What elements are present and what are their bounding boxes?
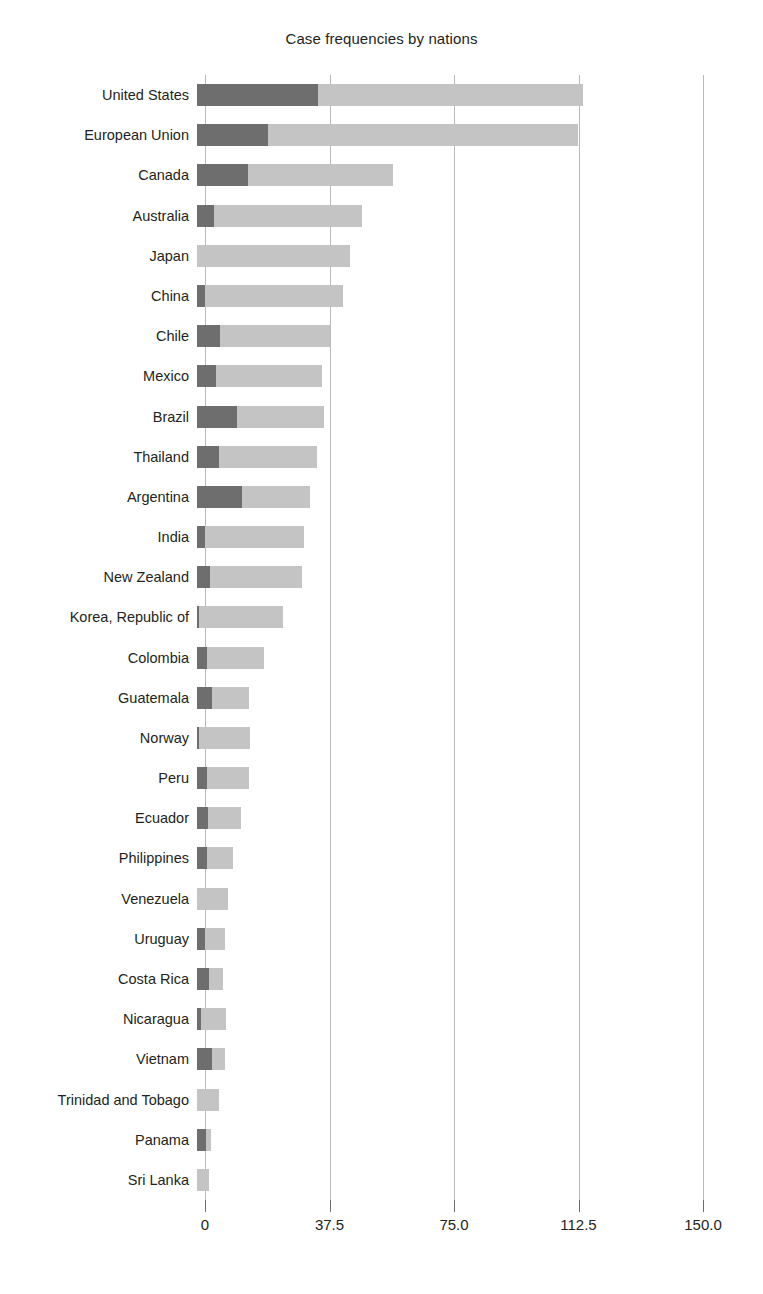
category-label: Trinidad and Tobago (0, 1092, 197, 1108)
stacked-bar[interactable] (197, 727, 250, 749)
chart-container: Case frequencies by nations United State… (0, 0, 763, 1294)
bar-row[interactable]: Mexico (0, 356, 763, 396)
bar-row[interactable]: Sri Lanka (0, 1160, 763, 1200)
bar-segment-series-1 (197, 1048, 212, 1070)
category-label: Brazil (0, 409, 197, 425)
stacked-bar[interactable] (197, 968, 223, 990)
bar-track (197, 597, 763, 637)
bar-row[interactable]: Japan (0, 236, 763, 276)
category-label: Argentina (0, 489, 197, 505)
stacked-bar[interactable] (197, 1169, 209, 1191)
bar-segment-series-1 (197, 446, 219, 468)
bar-row[interactable]: Peru (0, 758, 763, 798)
stacked-bar[interactable] (197, 888, 228, 910)
stacked-bar[interactable] (197, 767, 249, 789)
bar-segment-series-2 (242, 486, 310, 508)
bar-segment-series-2 (197, 888, 228, 910)
bar-segment-series-2 (268, 124, 578, 146)
stacked-bar[interactable] (197, 1008, 226, 1030)
bar-row[interactable]: Vietnam (0, 1039, 763, 1079)
stacked-bar[interactable] (197, 124, 578, 146)
bar-row[interactable]: Norway (0, 718, 763, 758)
category-label: Colombia (0, 650, 197, 666)
x-tick-mark (330, 1200, 331, 1212)
bar-row[interactable]: Nicaragua (0, 999, 763, 1039)
bar-track (197, 1079, 763, 1119)
bar-track (197, 236, 763, 276)
bar-row[interactable]: Trinidad and Tobago (0, 1079, 763, 1119)
stacked-bar[interactable] (197, 205, 362, 227)
bar-row[interactable]: Philippines (0, 838, 763, 878)
bar-row[interactable]: New Zealand (0, 557, 763, 597)
stacked-bar[interactable] (197, 164, 393, 186)
bar-row[interactable]: Chile (0, 316, 763, 356)
bar-row[interactable]: Ecuador (0, 798, 763, 838)
bar-segment-series-2 (214, 205, 362, 227)
category-label: European Union (0, 127, 197, 143)
bar-row[interactable]: Australia (0, 196, 763, 236)
stacked-bar[interactable] (197, 1089, 219, 1111)
bar-row[interactable]: Uruguay (0, 919, 763, 959)
bar-segment-series-1 (197, 486, 242, 508)
bar-row[interactable]: Argentina (0, 477, 763, 517)
stacked-bar[interactable] (197, 1048, 225, 1070)
bar-track (197, 517, 763, 557)
bar-row[interactable]: Brazil (0, 396, 763, 436)
bar-row[interactable]: United States (0, 75, 763, 115)
category-label: Ecuador (0, 810, 197, 826)
bar-segment-series-1 (197, 205, 214, 227)
bar-row[interactable]: Canada (0, 155, 763, 195)
bar-track (197, 758, 763, 798)
x-tick-label: 112.5 (560, 1216, 596, 1233)
stacked-bar[interactable] (197, 285, 343, 307)
bar-track (197, 396, 763, 436)
stacked-bar[interactable] (197, 365, 322, 387)
bar-segment-series-1 (197, 928, 205, 950)
category-label: Australia (0, 208, 197, 224)
stacked-bar[interactable] (197, 807, 241, 829)
x-axis: 037.575.0112.5150.0 (0, 1200, 763, 1260)
category-label: Philippines (0, 850, 197, 866)
stacked-bar[interactable] (197, 928, 225, 950)
bar-segment-series-2 (219, 446, 317, 468)
bar-row[interactable]: Venezuela (0, 879, 763, 919)
category-label: Thailand (0, 449, 197, 465)
stacked-bar[interactable] (197, 84, 583, 106)
bar-row[interactable]: Colombia (0, 638, 763, 678)
stacked-bar[interactable] (197, 245, 350, 267)
bar-row[interactable]: Thailand (0, 437, 763, 477)
stacked-bar[interactable] (197, 566, 302, 588)
bar-segment-series-2 (248, 164, 393, 186)
stacked-bar[interactable] (197, 687, 249, 709)
bar-row[interactable]: Korea, Republic of (0, 597, 763, 637)
bar-segment-series-1 (197, 767, 207, 789)
stacked-bar[interactable] (197, 526, 304, 548)
stacked-bar[interactable] (197, 606, 283, 628)
bar-segment-series-1 (197, 285, 205, 307)
stacked-bar[interactable] (197, 486, 310, 508)
chart-title: Case frequencies by nations (0, 30, 763, 47)
bar-row[interactable]: Guatemala (0, 678, 763, 718)
stacked-bar[interactable] (197, 647, 264, 669)
stacked-bar[interactable] (197, 446, 317, 468)
bar-track (197, 75, 763, 115)
bar-row[interactable]: India (0, 517, 763, 557)
bar-segment-series-1 (197, 84, 318, 106)
bar-segment-series-2 (207, 647, 264, 669)
stacked-bar[interactable] (197, 847, 233, 869)
bar-segment-series-2 (206, 1129, 211, 1151)
bar-row[interactable]: Panama (0, 1120, 763, 1160)
bar-segment-series-2 (210, 566, 302, 588)
bar-track (197, 276, 763, 316)
bar-segment-series-2 (197, 245, 350, 267)
stacked-bar[interactable] (197, 1129, 211, 1151)
bar-segment-series-2 (201, 1008, 226, 1030)
stacked-bar[interactable] (197, 325, 330, 347)
stacked-bar[interactable] (197, 406, 324, 428)
bar-row[interactable]: European Union (0, 115, 763, 155)
bar-row[interactable]: China (0, 276, 763, 316)
bar-track (197, 718, 763, 758)
bar-segment-series-1 (197, 164, 248, 186)
bar-row[interactable]: Costa Rica (0, 959, 763, 999)
bar-segment-series-1 (197, 365, 216, 387)
